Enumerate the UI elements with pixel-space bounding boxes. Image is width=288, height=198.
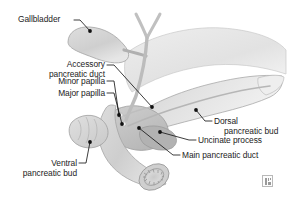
label-main-pancreatic-duct-text: Main pancreatic duct — [182, 150, 258, 160]
label-gallbladder-text: Gallbladder — [18, 14, 60, 24]
gallbladder-shape — [68, 27, 129, 63]
label-dorsal-pancreatic-bud-line1: Dorsal — [214, 116, 238, 126]
anchor-dot-uncinate-process — [158, 130, 162, 134]
label-main-pancreatic-duct: Main pancreatic duct — [182, 150, 258, 160]
label-major-papilla: Major papilla — [5, 88, 105, 98]
pancreas-tail-tip-shape — [258, 75, 284, 95]
anchor-dot-ventral-pancreatic-bud — [88, 140, 92, 144]
label-ventral-pancreatic-bud-line2: pancreatic bud — [0, 168, 77, 178]
image-placeholder-mark-icon — [262, 175, 273, 187]
label-uncinate-process-text: Uncinate process — [198, 135, 262, 145]
label-major-papilla-text: Major papilla — [58, 88, 105, 98]
label-minor-papilla: Minor papilla — [5, 76, 105, 86]
hepatic-duct-branches-shape — [136, 14, 160, 38]
organ-shapes — [68, 14, 286, 196]
anchor-dot-major-papilla — [120, 122, 124, 126]
label-ventral-pancreatic-bud-line1: Ventral — [51, 158, 77, 168]
label-uncinate-process: Uncinate process — [198, 135, 262, 145]
anchor-dot-dorsal-pancreatic-bud — [194, 108, 198, 112]
anchor-dot-minor-papilla — [117, 113, 121, 117]
label-dorsal-pancreatic-bud: Dorsal pancreatic bud — [214, 116, 278, 136]
anchor-dot-gallbladder — [88, 29, 92, 33]
anatomy-figure: Gallbladder Accessory pancreatic duct Mi… — [0, 0, 288, 198]
label-ventral-pancreatic-bud: Ventral pancreatic bud — [0, 158, 77, 178]
label-accessory-pancreatic-duct-line1: Accessory — [67, 59, 105, 69]
label-minor-papilla-text: Minor papilla — [58, 76, 105, 86]
label-gallbladder: Gallbladder — [18, 14, 60, 24]
anchor-dot-main-pancreatic-duct — [137, 126, 141, 130]
anchor-dot-accessory-pancreatic-duct — [150, 105, 154, 109]
